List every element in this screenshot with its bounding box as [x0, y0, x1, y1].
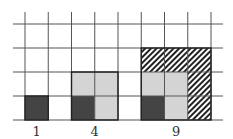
figure-label: 9: [172, 124, 180, 139]
square-numbers-diagram: 149: [0, 0, 233, 139]
cell-light-fig9: [141, 72, 164, 96]
cell-light-fig4: [95, 96, 118, 120]
cell-light-fig4: [72, 72, 95, 96]
labels-layer: 149: [32, 124, 180, 139]
cell-hatch-fig9: [188, 72, 211, 96]
cell-light-fig4: [95, 72, 118, 96]
cell-hatch-fig9: [141, 48, 164, 72]
cell-dark-fig1: [25, 96, 48, 120]
cell-dark-fig9: [141, 96, 164, 120]
cell-light-fig9: [165, 96, 188, 120]
figure-label: 1: [32, 124, 40, 139]
cell-hatch-fig9: [188, 96, 211, 120]
cell-dark-fig4: [72, 96, 95, 120]
cell-light-fig9: [165, 72, 188, 96]
cell-hatch-fig9: [188, 48, 211, 72]
cell-hatch-fig9: [165, 48, 188, 72]
figure-label: 4: [91, 124, 99, 139]
